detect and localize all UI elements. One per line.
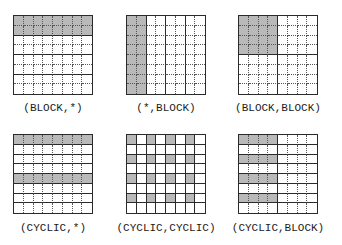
grid-cell bbox=[53, 135, 63, 145]
grid-cell bbox=[14, 84, 24, 94]
grid-cell bbox=[239, 36, 249, 46]
grid-cell bbox=[239, 194, 249, 204]
grid-cell bbox=[259, 145, 269, 155]
grid-cell bbox=[137, 55, 147, 65]
grid-cell bbox=[63, 84, 73, 94]
grid-cell bbox=[147, 84, 157, 94]
grid-cell bbox=[268, 194, 278, 204]
grid-cell bbox=[288, 184, 298, 194]
grid-cell bbox=[63, 184, 73, 194]
grid-cell bbox=[156, 75, 166, 85]
grid-cell bbox=[195, 84, 205, 94]
grid-cell bbox=[298, 194, 308, 204]
grid-cell bbox=[73, 84, 83, 94]
grid-cell bbox=[239, 174, 249, 184]
grid-cell bbox=[195, 145, 205, 155]
grid-cell bbox=[288, 194, 298, 204]
grid-cell bbox=[53, 155, 63, 165]
grid-cell bbox=[288, 203, 298, 213]
grid-cell bbox=[147, 75, 157, 85]
grid-cell bbox=[278, 135, 288, 145]
grid-cell bbox=[24, 184, 34, 194]
grid-cell bbox=[239, 65, 249, 75]
grid-cell bbox=[127, 174, 137, 184]
grid-cell bbox=[176, 16, 186, 26]
grid-cell bbox=[14, 184, 24, 194]
grid-cell bbox=[249, 36, 259, 46]
grid-cell bbox=[156, 135, 166, 145]
grid-cell bbox=[53, 184, 63, 194]
grid-cell bbox=[288, 45, 298, 55]
grid-cell bbox=[268, 36, 278, 46]
grid-cell bbox=[298, 45, 308, 55]
grid-cell bbox=[156, 65, 166, 75]
grid-cell bbox=[249, 75, 259, 85]
grid-cell bbox=[34, 55, 44, 65]
grid-cell bbox=[239, 84, 249, 94]
grid-cell bbox=[34, 84, 44, 94]
grid-cell bbox=[298, 145, 308, 155]
grid-cell bbox=[307, 84, 317, 94]
grid-cell bbox=[137, 203, 147, 213]
grid-star-block bbox=[126, 15, 206, 95]
grid-cell bbox=[156, 155, 166, 165]
grid-cell bbox=[278, 155, 288, 165]
grid-cell bbox=[147, 55, 157, 65]
grid-cell bbox=[278, 16, 288, 26]
grid-cell bbox=[259, 184, 269, 194]
grid-cell bbox=[53, 75, 63, 85]
grid-cell bbox=[14, 155, 24, 165]
grid-cell bbox=[195, 155, 205, 165]
grid-cell bbox=[288, 16, 298, 26]
grid-cell bbox=[278, 184, 288, 194]
grid-cell bbox=[73, 164, 83, 174]
grid-cell bbox=[268, 55, 278, 65]
grid-cell bbox=[147, 155, 157, 165]
grid-cell bbox=[259, 26, 269, 36]
grid-cell bbox=[288, 75, 298, 85]
grid-cell bbox=[249, 155, 259, 165]
grid-cell bbox=[73, 184, 83, 194]
grid-cell bbox=[63, 155, 73, 165]
grid-cell bbox=[249, 16, 259, 26]
grid-cell bbox=[166, 36, 176, 46]
grid-cell bbox=[176, 194, 186, 204]
grid-cell bbox=[298, 75, 308, 85]
grid-cell bbox=[73, 16, 83, 26]
grid-cell bbox=[166, 26, 176, 36]
grid-cell bbox=[259, 135, 269, 145]
grid-cell bbox=[63, 65, 73, 75]
grid-cell bbox=[24, 45, 34, 55]
grid-cell bbox=[82, 145, 92, 155]
grid-cell bbox=[34, 203, 44, 213]
grid-cell bbox=[34, 184, 44, 194]
grid-cell bbox=[14, 145, 24, 155]
grid-cell bbox=[278, 45, 288, 55]
grid-cell bbox=[34, 135, 44, 145]
grid-cell bbox=[268, 16, 278, 26]
grid-cell bbox=[43, 194, 53, 204]
grid-cell bbox=[24, 75, 34, 85]
grid-cell bbox=[278, 55, 288, 65]
grid-cell bbox=[24, 65, 34, 75]
grid-cell bbox=[43, 155, 53, 165]
grid-cell bbox=[43, 26, 53, 36]
grid-cell bbox=[195, 174, 205, 184]
grid-cell bbox=[268, 145, 278, 155]
grid-cell bbox=[249, 84, 259, 94]
grid-cell bbox=[186, 55, 196, 65]
grid-cell bbox=[249, 45, 259, 55]
grid-cell bbox=[34, 45, 44, 55]
grid-cell bbox=[249, 135, 259, 145]
grid-cell bbox=[24, 174, 34, 184]
grid-cell bbox=[307, 75, 317, 85]
grid-cell bbox=[239, 145, 249, 155]
grid-cell bbox=[239, 45, 249, 55]
grid-cell bbox=[24, 26, 34, 36]
grid-cell bbox=[82, 26, 92, 36]
grid-cell bbox=[82, 135, 92, 145]
grid-cell bbox=[176, 164, 186, 174]
grid-cell bbox=[63, 55, 73, 65]
grid-cell bbox=[24, 164, 34, 174]
grid-cell bbox=[156, 16, 166, 26]
